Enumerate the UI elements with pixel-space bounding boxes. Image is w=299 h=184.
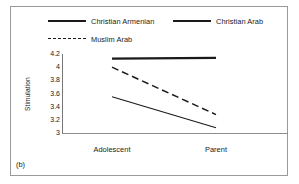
- series-lines: [0, 0, 299, 184]
- plot-area: Stimulation 4.243.83.63.43.23 Adolescent…: [0, 0, 299, 184]
- figure-panel-b: Christian Armenian Christian Arab Muslim…: [0, 0, 299, 184]
- panel-label: (b): [16, 160, 25, 169]
- series-line-christian-arab: [112, 97, 216, 128]
- series-line-christian-armenian: [112, 58, 216, 59]
- series-line-muslim-arab: [112, 67, 216, 114]
